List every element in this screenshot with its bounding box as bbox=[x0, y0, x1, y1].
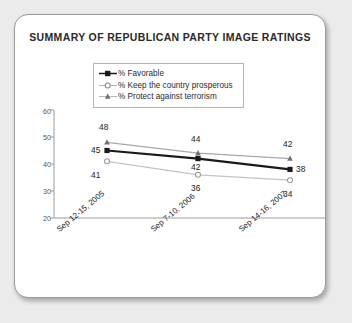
data-label-terrorism-1: 44 bbox=[191, 134, 200, 144]
data-label-favorable-2: 38 bbox=[296, 164, 305, 174]
plot-area bbox=[15, 15, 325, 297]
data-label-favorable-0: 45 bbox=[91, 145, 100, 155]
data-label-prosperous-1: 36 bbox=[191, 183, 200, 193]
data-label-favorable-1: 42 bbox=[191, 162, 200, 172]
data-label-prosperous-0: 41 bbox=[91, 170, 100, 180]
data-label-terrorism-2: 42 bbox=[283, 139, 292, 149]
chart-card: SUMMARY OF REPUBLICAN PARTY IMAGE RATING… bbox=[14, 14, 326, 298]
data-label-terrorism-0: 48 bbox=[99, 122, 108, 132]
